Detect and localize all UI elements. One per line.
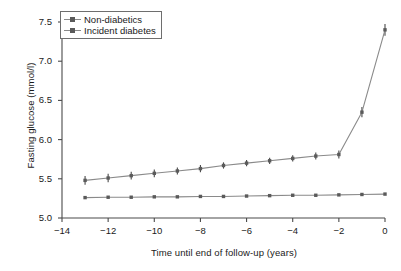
chart-legend: Non-diabetics Incident diabetes <box>60 11 162 39</box>
data-point <box>383 192 386 195</box>
data-point <box>245 194 248 197</box>
data-point <box>83 179 86 182</box>
data-point <box>291 157 294 160</box>
data-point <box>153 172 156 175</box>
chart-figure: Fasting glucose (mmol/l) Time until end … <box>0 0 401 271</box>
legend-marker-icon <box>64 15 81 25</box>
legend-item-non-diabetics: Non-diabetics <box>64 14 156 25</box>
legend-label: Non-diabetics <box>84 15 142 25</box>
plot-area <box>0 0 401 271</box>
legend-label: Incident diabetes <box>84 26 156 36</box>
data-point <box>314 154 317 157</box>
data-point <box>176 195 179 198</box>
data-point <box>106 176 109 179</box>
legend-item-incident-diabetes: Incident diabetes <box>64 25 156 36</box>
data-point <box>83 196 86 199</box>
data-point <box>153 195 156 198</box>
data-point <box>176 169 179 172</box>
data-point <box>268 159 271 162</box>
data-point <box>383 28 386 31</box>
data-point <box>291 194 294 197</box>
data-point <box>106 196 109 199</box>
data-point <box>314 194 317 197</box>
data-point <box>337 193 340 196</box>
data-point <box>199 167 202 170</box>
data-point <box>245 161 248 164</box>
data-point <box>337 153 340 156</box>
data-point <box>268 194 271 197</box>
data-point <box>130 174 133 177</box>
data-point <box>360 193 363 196</box>
data-point <box>222 195 225 198</box>
legend-marker-icon <box>64 26 81 36</box>
series-line-2 <box>85 30 385 181</box>
data-point <box>222 164 225 167</box>
data-point <box>199 195 202 198</box>
data-point <box>130 196 133 199</box>
data-point <box>360 110 363 113</box>
